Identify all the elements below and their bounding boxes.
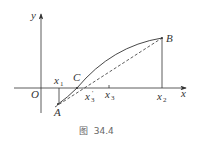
point-b-label: B xyxy=(166,32,173,44)
svg-text:x: x xyxy=(156,90,162,102)
tick-label-x3: x 3 xyxy=(104,88,115,102)
figure-caption: 图 34.4 xyxy=(79,126,114,136)
tick-label-x1: x 1 xyxy=(53,74,64,88)
figure-diagram: y x O A B C x 1 x 3 ' x 3 x 2 图 34.4 xyxy=(0,0,198,147)
svg-text:x: x xyxy=(104,88,110,100)
svg-text:1: 1 xyxy=(60,80,64,88)
svg-text:x: x xyxy=(53,74,59,86)
point-a-label: A xyxy=(53,106,61,118)
svg-text:x: x xyxy=(84,90,90,102)
svg-text:3: 3 xyxy=(91,96,95,104)
svg-text:': ' xyxy=(92,89,93,97)
point-c-label: C xyxy=(73,71,81,83)
point-b xyxy=(161,37,163,39)
y-axis-label: y xyxy=(30,9,36,21)
point-a xyxy=(57,103,59,105)
x-axis-label: x xyxy=(180,87,186,99)
tick-label-x2: x 2 xyxy=(156,90,167,104)
point-c xyxy=(76,87,78,89)
tick-label-x3-prime: x 3 ' xyxy=(84,89,95,104)
svg-text:2: 2 xyxy=(163,96,167,104)
origin-label: O xyxy=(31,88,39,100)
svg-text:3: 3 xyxy=(111,94,115,102)
